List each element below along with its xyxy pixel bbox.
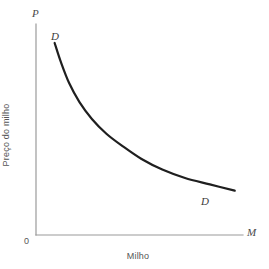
chart-plot-area [0,0,269,269]
curve-label-lower: D [201,195,209,207]
demand-curve-chart: P M 0 Preço do milho Milho D D [0,0,269,269]
y-axis-title: Preço do milho [0,95,12,175]
demand-curve-path [55,43,235,191]
x-axis-title: Milho [98,250,178,262]
curve-label-upper: D [51,30,59,42]
y-axis-symbol: P [32,7,39,19]
x-axis-symbol: M [247,226,256,238]
origin-label: 0 [24,236,29,246]
